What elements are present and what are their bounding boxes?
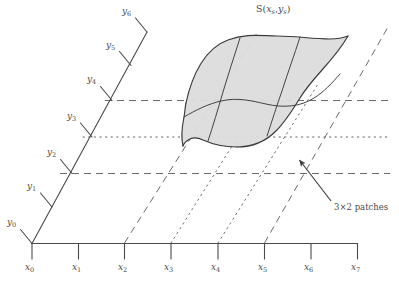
- y-axis-tick-y4: [101, 87, 113, 101]
- y-tick-label-y4: y4: [87, 75, 96, 84]
- y-tick-label-y3: y3: [67, 112, 76, 121]
- x-tick-label-x6: x6: [304, 263, 313, 272]
- figure-canvas: [0, 0, 399, 291]
- y-tick-label-y6: y6: [122, 7, 131, 16]
- x-axis: [32, 244, 358, 260]
- y-axis-tick-y3: [81, 123, 93, 137]
- y-tick-label-y1: y1: [27, 182, 36, 191]
- y-axis: [21, 18, 148, 244]
- patches-annotation-label: 3×2 patches: [334, 203, 388, 212]
- x-tick-label-x0: x0: [25, 263, 34, 272]
- surface-patch-figure: S(xs,ys) 3×2 patches x0 x1 x2 x3 x4 x5 x…: [0, 0, 399, 291]
- surface-title-text: S(xs,ys): [256, 3, 290, 14]
- y-axis-tick-y6: [136, 18, 148, 32]
- x-tick-label-x7: x7: [351, 263, 360, 272]
- y-axis-tick-y2: [61, 160, 73, 174]
- y-tick-label-y0: y0: [7, 218, 16, 227]
- y-axis-tick-y1: [41, 193, 53, 207]
- surface-patch-mesh: [182, 35, 348, 147]
- x-tick-label-x5: x5: [258, 263, 267, 272]
- surface-title-label: S(xs,ys): [256, 4, 290, 14]
- x-tick-label-x4: x4: [211, 263, 220, 272]
- x-tick-label-x2: x2: [118, 263, 127, 272]
- y-axis-tick-y5: [120, 52, 132, 66]
- y-axis-tick-y0: [21, 230, 33, 244]
- x-tick-label-x3: x3: [164, 263, 173, 272]
- y-tick-label-y5: y5: [106, 41, 115, 50]
- annotation-arrow: [300, 160, 332, 201]
- x-tick-label-x1: x1: [72, 263, 81, 272]
- y-tick-label-y2: y2: [47, 148, 56, 157]
